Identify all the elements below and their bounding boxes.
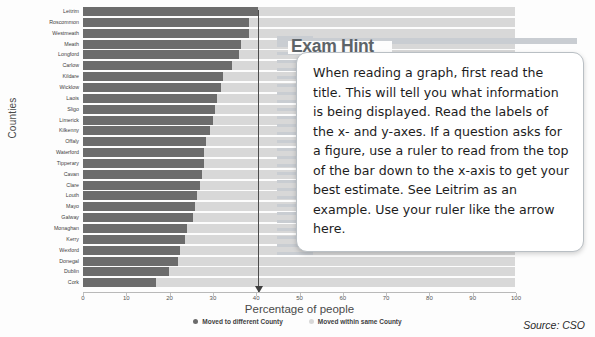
- y-axis-tick-label: Laois: [66, 93, 79, 103]
- x-axis-tick-label: 10: [123, 295, 130, 301]
- y-axis-tick-label: Westmeath: [52, 28, 79, 38]
- legend-swatch-icon-dark: [193, 319, 198, 324]
- y-axis-tick-label: Leitrim: [63, 6, 79, 16]
- legend-swatch-icon-light: [309, 319, 314, 324]
- x-axis-tick-label: 90: [469, 295, 476, 301]
- bar-segment-moved-to-different-county: [83, 278, 156, 287]
- chart-page: Counties LeitrimRoscommonWestmeathMeathL…: [0, 0, 595, 337]
- bar-segment-moved-to-different-county: [83, 126, 210, 135]
- bar-row: Leitrim: [83, 7, 515, 16]
- y-axis-tick-label: Carlow: [63, 60, 79, 70]
- y-axis-tick-label: Meath: [64, 39, 79, 49]
- bar-segment-moved-to-different-county: [83, 213, 193, 222]
- y-axis-tick-label: Clare: [66, 180, 79, 190]
- x-axis-tick-label: 20: [166, 295, 173, 301]
- y-axis-tick-label: Louth: [66, 190, 79, 200]
- x-axis-tick-label: 0: [81, 295, 84, 301]
- y-axis-tick-label: Donegal: [59, 256, 79, 266]
- y-axis-title-label: Counties: [7, 48, 18, 188]
- bar-segment-moved-to-different-county: [83, 257, 178, 266]
- source-credit: Source: CSO: [523, 319, 585, 331]
- y-axis-tick-label: Limerick: [59, 115, 79, 125]
- bar-segment-moved-to-different-county: [83, 40, 241, 49]
- ruler-arrow-annotation: [258, 10, 259, 292]
- bar-segment-moved-to-different-county: [83, 94, 217, 103]
- y-axis-tick-label: Sligo: [67, 104, 79, 114]
- legend-label-dark: Moved to different County: [202, 318, 283, 325]
- x-axis-tick-label: 60: [339, 295, 346, 301]
- bar-segment-moved-to-different-county: [83, 61, 232, 70]
- legend-item-moved-same-county[interactable]: Moved within same County: [309, 318, 402, 325]
- x-axis-tick-label: 70: [383, 295, 390, 301]
- y-axis-tick-label: Waterford: [56, 147, 79, 157]
- bar-segment-moved-to-different-county: [83, 116, 213, 125]
- chart-legend: Moved to different County Moved within s…: [0, 318, 595, 325]
- y-axis-tick-label: Tipperary: [57, 158, 79, 168]
- x-axis-tick-label: 50: [296, 295, 303, 301]
- y-axis-tick-label: Mayo: [66, 201, 79, 211]
- bar-segment-moved-to-different-county: [83, 18, 249, 27]
- exam-hint-callout: When reading a graph, first read the tit…: [296, 52, 584, 252]
- y-axis-tick-label: Dublin: [64, 266, 79, 276]
- legend-item-moved-different-county[interactable]: Moved to different County: [193, 318, 283, 325]
- y-axis-tick-label: Wicklow: [60, 82, 79, 92]
- x-axis-tick-label: 30: [210, 295, 217, 301]
- bar-segment-moved-to-different-county: [83, 83, 221, 92]
- bar-segment-moved-to-different-county: [83, 202, 195, 211]
- bar-row: Roscommon: [83, 18, 515, 27]
- bar-segment-moved-to-different-county: [83, 191, 197, 200]
- y-axis-tick-label: Kilkenny: [59, 125, 79, 135]
- bar-segment-moved-to-different-county: [83, 148, 204, 157]
- bar-segment-moved-to-different-county: [83, 137, 206, 146]
- x-axis-tick-label: 40: [253, 295, 260, 301]
- bar-segment-moved-to-different-county: [83, 29, 249, 38]
- y-axis-tick-label: Roscommon: [49, 17, 79, 27]
- y-axis-tick-label: Galway: [61, 212, 79, 222]
- y-axis-tick-label: Kerry: [66, 234, 79, 244]
- y-axis-tick-label: Wexford: [59, 245, 79, 255]
- bar-segment-moved-to-different-county: [83, 181, 200, 190]
- y-axis-tick-label: Kildare: [63, 71, 80, 81]
- bar-segment-moved-to-different-county: [83, 224, 187, 233]
- bar-segment-moved-to-different-county: [83, 72, 223, 81]
- bar-segment-moved-to-different-county: [83, 105, 215, 114]
- y-axis-tick-label: Offaly: [65, 136, 79, 146]
- y-axis-tick-label: Longford: [58, 49, 79, 59]
- x-axis-tick-label: 80: [426, 295, 433, 301]
- legend-label-light: Moved within same County: [318, 318, 402, 325]
- x-axis-tick-label: 100: [511, 295, 521, 301]
- y-axis-tick-label: Cork: [68, 277, 79, 287]
- bar-segment-moved-to-different-county: [83, 246, 180, 255]
- y-axis-tick-label: Monaghan: [54, 223, 79, 233]
- bar-row: Cork: [83, 278, 515, 287]
- bar-segment-moved-to-different-county: [83, 7, 258, 16]
- bar-segment-moved-to-different-county: [83, 267, 169, 276]
- bar-segment-moved-to-different-county: [83, 170, 202, 179]
- bar-row: Dublin: [83, 267, 515, 276]
- bar-segment-moved-to-different-county: [83, 50, 239, 59]
- hint-body-text: When reading a graph, first read the tit…: [313, 63, 570, 239]
- y-axis-tick-label: Cavan: [64, 169, 79, 179]
- bar-segment-moved-to-different-county: [83, 159, 204, 168]
- bar-segment-moved-to-different-county: [83, 235, 185, 244]
- x-axis-title: Percentage of people: [83, 303, 516, 315]
